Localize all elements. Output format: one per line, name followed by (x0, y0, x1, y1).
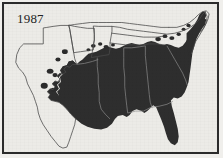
speck-arkansas-2 (55, 58, 60, 62)
speck-tennessee-2 (98, 42, 102, 46)
speck-virginia-1 (177, 32, 181, 36)
state-outline-tennessee-north (112, 33, 163, 37)
state-outline-oklahoma (69, 25, 95, 52)
year-label: 1987 (17, 12, 44, 26)
speck-arkansas-1 (62, 49, 68, 54)
figure-frame: 1987 (2, 2, 219, 154)
state-outline-northern-boundary (69, 23, 169, 28)
map-figure: 1987 (0, 0, 223, 158)
infested-main-block (56, 18, 206, 146)
distribution-map (4, 4, 217, 152)
speck-texas-2 (52, 73, 57, 77)
speck-carolina-1 (155, 37, 160, 41)
speck-texas-1 (47, 69, 54, 74)
speck-tennessee-3 (104, 45, 109, 49)
speck-maryland-1 (186, 24, 190, 28)
infested-region (47, 12, 206, 145)
speck-texas-3 (41, 83, 48, 89)
speck-carolina-3 (169, 36, 174, 40)
